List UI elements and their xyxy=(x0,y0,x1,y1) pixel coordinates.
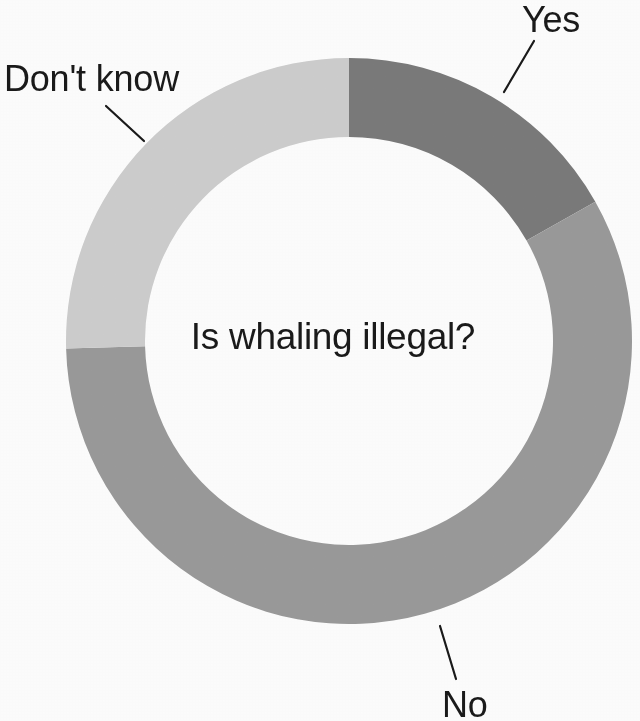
donut-chart: Don't know Yes No Is whaling illegal? xyxy=(0,0,640,721)
slice-label-yes: Yes xyxy=(522,2,580,38)
donut-slice-yes[interactable] xyxy=(349,58,595,241)
leader-line-dont-know xyxy=(106,106,144,141)
slice-label-dont-know: Don't know xyxy=(4,61,179,97)
donut-center-title: Is whaling illegal? xyxy=(0,318,640,355)
leader-line-no xyxy=(440,626,456,679)
leader-line-yes xyxy=(504,41,534,92)
donut-chart-svg xyxy=(0,0,640,721)
slice-label-no: No xyxy=(442,687,488,721)
donut-slice-don-t-know[interactable] xyxy=(66,58,349,348)
